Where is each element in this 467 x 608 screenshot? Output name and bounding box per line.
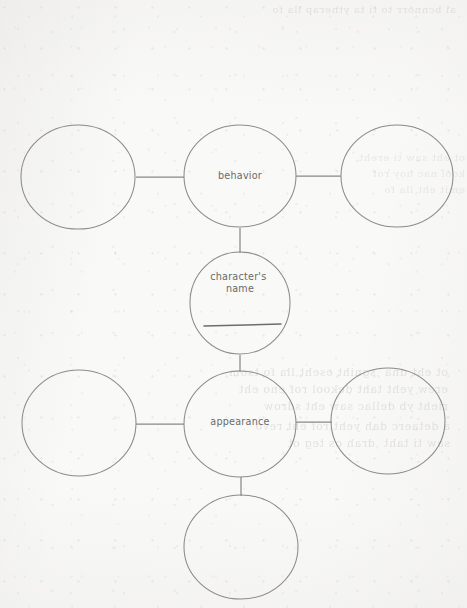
node-behavior[interactable] — [341, 125, 453, 227]
label-character-name: character's name — [210, 271, 270, 294]
node-behavior-right[interactable] — [190, 252, 290, 354]
node-behavior-top[interactable] — [21, 125, 135, 229]
node-character-name[interactable] — [22, 370, 136, 476]
label-character-name-line1: character's — [210, 271, 266, 282]
node-group — [21, 125, 453, 599]
label-character-name-line2: name — [226, 283, 254, 294]
label-appearance: appearance — [210, 416, 269, 427]
label-behavior: behavior — [218, 170, 262, 181]
character-web-diagram: behavior character's name appearance — [0, 0, 467, 608]
character-name-writing-line[interactable] — [204, 324, 281, 326]
connector-group — [0, 0, 341, 496]
worksheet-page: ai bcnnorr to ti ta ytnerap lla fo ot eh… — [0, 0, 467, 608]
node-appearance[interactable] — [331, 368, 445, 474]
node-appearance-right[interactable] — [184, 495, 298, 599]
